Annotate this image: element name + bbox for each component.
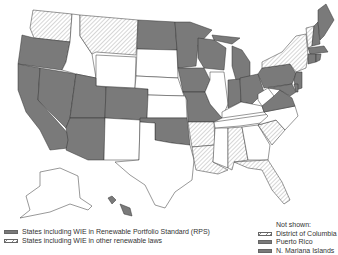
state-ma [308,46,328,54]
rps-swatch [258,249,272,253]
state-nd [137,20,177,50]
state-ar [188,122,215,147]
state-ct [308,54,316,64]
legend-label: N. Mariana Islands [276,247,334,255]
legend-label: States including WIE in Renewable Portfo… [22,227,210,236]
us-map [0,0,338,255]
legend-item-nmi: N. Mariana Islands [258,247,337,255]
state-ia [178,68,210,92]
state-ks [147,95,187,118]
state-wi [198,38,226,70]
state-hi [108,196,132,216]
state-az [66,118,105,160]
state-ms [213,128,228,168]
state-ak [20,168,92,218]
hatch-swatch [258,232,272,236]
state-sd [136,49,178,78]
legend-item-other: States including WIE in other renewable … [4,236,210,245]
state-wa [30,10,72,42]
not-shown-legend: Not shown: District of Columbia Puerto R… [258,221,337,255]
state-me [318,4,334,40]
state-mt [80,15,138,55]
rps-swatch [258,240,272,244]
legend-item-pr: Puerto Rico [258,238,337,247]
not-shown-heading: Not shown: [258,221,337,230]
hatch-swatch [4,239,18,243]
legend-label: Puerto Rico [276,238,313,247]
state-co [105,87,148,120]
state-nm [104,118,140,160]
legend-label: District of Columbia [276,230,337,239]
rps-swatch [4,230,18,234]
legend: States including WIE in Renewable Portfo… [4,227,210,245]
legend-item-dc: District of Columbia [258,230,337,239]
state-ri [316,54,321,62]
legend-item-rps: States including WIE in Renewable Portfo… [4,227,210,236]
state-wy [96,55,136,88]
state-fl [234,160,290,204]
legend-label: States including WIE in other renewable … [22,236,162,245]
